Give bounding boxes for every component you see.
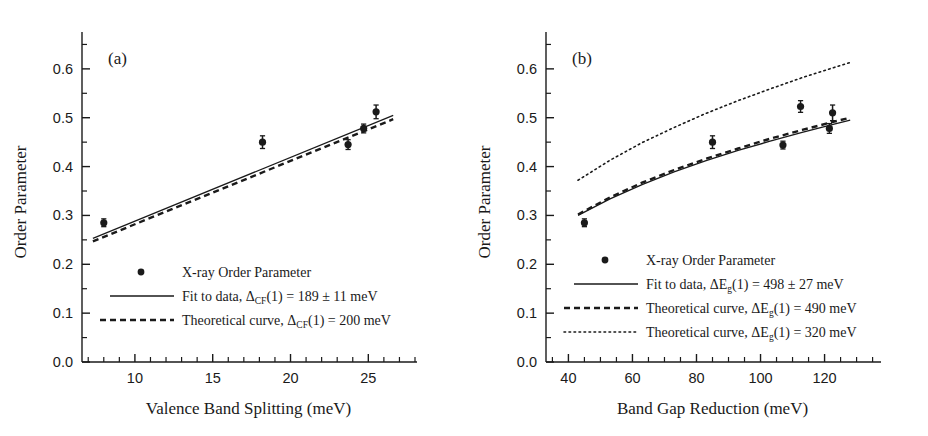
y-axis-title: Order Parameter (11, 145, 30, 258)
y-tick-label: 0.2 (53, 256, 73, 272)
data-point-marker (372, 108, 379, 115)
data-point-marker (360, 125, 367, 132)
y-tick-label: 0.5 (53, 110, 73, 126)
chart-panel-a: 0.00.10.20.30.40.50.610152025Valence Ban… (0, 0, 464, 436)
y-tick-label: 0.4 (53, 159, 73, 175)
y-tick-label: 0.0 (517, 354, 537, 370)
x-tick-label: 80 (688, 370, 704, 386)
data-point-marker (344, 141, 351, 148)
chart-svg-a: 0.00.10.20.30.40.50.610152025Valence Ban… (0, 0, 464, 436)
data-point-marker (797, 103, 804, 110)
chart-panel-b: 0.00.10.20.30.40.50.6406080100120Band Ga… (464, 0, 928, 436)
data-point-marker (259, 139, 266, 146)
legend-marker-filled-circle (602, 257, 609, 264)
x-tick-label: 25 (360, 370, 376, 386)
x-tick-label: 15 (205, 370, 221, 386)
legend-marker-filled-circle (138, 269, 145, 276)
x-tick-label: 100 (748, 370, 772, 386)
y-tick-label: 0.4 (517, 159, 537, 175)
legend-label: Fit to data, ΔEg(1) = 498 ± 27 meV (646, 277, 844, 294)
y-tick-label: 0.1 (53, 305, 73, 321)
y-tick-label: 0.5 (517, 110, 537, 126)
x-axis-title: Valence Band Splitting (meV) (146, 399, 351, 418)
y-tick-label: 0.1 (517, 305, 537, 321)
x-tick-label: 120 (812, 370, 836, 386)
data-point-marker (829, 109, 836, 116)
legend-label: Fit to data, ΔCF(1) = 189 ± 11 meV (182, 289, 378, 306)
figure-container: 0.00.10.20.30.40.50.610152025Valence Ban… (0, 0, 928, 436)
legend-label: Theoretical curve, ΔCF(1) = 200 meV (182, 313, 391, 330)
x-tick-label: 10 (127, 370, 143, 386)
data-point-marker (826, 125, 833, 132)
y-tick-label: 0.3 (53, 207, 73, 223)
legend-label: X-ray Order Parameter (646, 253, 775, 268)
legend-label: Theoretical curve, ΔEg(1) = 490 meV (646, 301, 857, 318)
legend-label: Theoretical curve, ΔEg(1) = 320 meV (646, 325, 857, 342)
x-tick-label: 60 (624, 370, 640, 386)
y-tick-label: 0.6 (517, 61, 537, 77)
x-tick-label: 20 (282, 370, 298, 386)
y-axis-title: Order Parameter (475, 145, 494, 258)
data-point-marker (581, 219, 588, 226)
chart-svg-b: 0.00.10.20.30.40.50.6406080100120Band Ga… (464, 0, 928, 436)
legend-label: X-ray Order Parameter (182, 265, 311, 280)
data-point-marker (100, 219, 107, 226)
y-tick-label: 0.3 (517, 207, 537, 223)
data-point-marker (709, 139, 716, 146)
data-point-marker (779, 141, 786, 148)
panel-label: (a) (108, 49, 127, 68)
y-tick-label: 0.2 (517, 256, 537, 272)
panel-label: (b) (572, 49, 592, 68)
x-axis-title: Band Gap Reduction (meV) (617, 399, 808, 418)
x-tick-label: 40 (560, 370, 576, 386)
y-tick-label: 0.6 (53, 61, 73, 77)
y-tick-label: 0.0 (53, 354, 73, 370)
